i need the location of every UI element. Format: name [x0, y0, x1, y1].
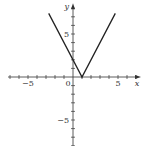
axes	[8, 3, 141, 146]
tick-labels: −5055−5xy	[22, 2, 140, 125]
x-tick-label: 5	[115, 79, 120, 88]
plot-line	[49, 13, 116, 77]
y-axis-label: y	[63, 2, 69, 11]
x-tick-label: 0	[65, 79, 70, 88]
y-tick-label: −5	[57, 116, 69, 125]
x-axis-label: x	[135, 79, 140, 88]
function-graph: −5055−5xy	[0, 0, 144, 146]
x-tick-label: −5	[22, 79, 34, 88]
series-line	[49, 13, 116, 77]
y-tick-label: 5	[64, 30, 69, 39]
chart-container: −5055−5xy	[0, 0, 144, 146]
